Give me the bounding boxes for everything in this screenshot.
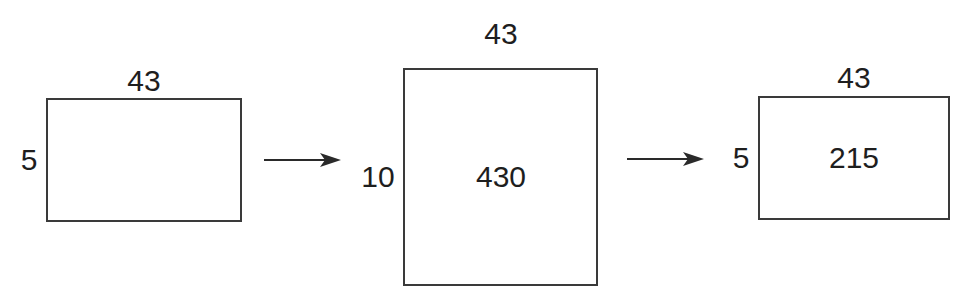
stage-3-height-label: 5 <box>733 143 750 173</box>
arrow-right-icon <box>625 149 707 169</box>
stage-1-rectangle <box>46 98 242 222</box>
stage-3-width-label: 43 <box>837 63 870 93</box>
stage-2-width-label: 43 <box>484 19 517 49</box>
dimension-diagram: 43 5 43 10 430 43 5 215 <box>0 0 971 289</box>
arrow-right-icon <box>262 150 344 170</box>
stage-2-height-label: 10 <box>361 162 394 192</box>
stage-1-width-label: 43 <box>127 66 160 96</box>
stage-2-center-label: 430 <box>476 162 526 192</box>
stage-3-center-label: 215 <box>829 143 879 173</box>
stage-1-height-label: 5 <box>21 145 38 175</box>
